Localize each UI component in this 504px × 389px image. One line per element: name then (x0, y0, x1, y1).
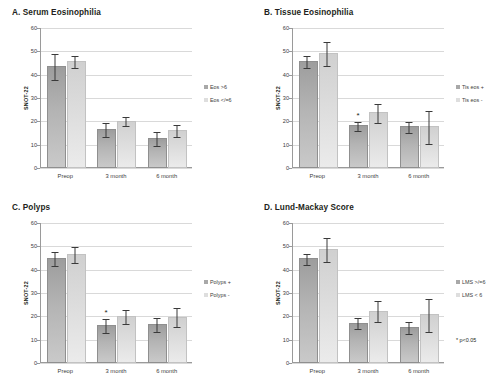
y-tick-label: 20 (31, 313, 37, 319)
error-bar-cap (304, 68, 311, 69)
error-bar-line (75, 248, 76, 264)
legend-swatch-icon (204, 85, 208, 89)
error-bar-cap (304, 265, 311, 266)
x-tick-label: Preop (310, 368, 325, 374)
plot-area: 0102030405060SNOT-22Preop*3 month6 month (40, 223, 192, 363)
error-bar-cap (324, 262, 331, 263)
y-tick-label: 30 (31, 95, 37, 101)
legend-label: Polyps - (210, 292, 229, 298)
panel-title: C. Polyps (12, 203, 50, 212)
y-tick-label: 0 (34, 165, 37, 171)
y-tick-label: 10 (31, 142, 37, 148)
y-tick-label: 10 (283, 142, 289, 148)
y-tick-label: 50 (31, 243, 37, 249)
error-bar (47, 223, 64, 363)
y-tick-label: 30 (31, 290, 37, 296)
x-tick-label: 6 month (408, 368, 429, 374)
bar-group: Preop (40, 223, 91, 363)
error-bar-cap (52, 54, 59, 55)
panel-b: B. Tissue Eosinophilia0102030405060SNOT-… (252, 0, 504, 194)
error-bar-cap (324, 238, 331, 239)
error-bar-cap (173, 137, 180, 138)
bar-group: 6 month (141, 28, 192, 168)
error-bar-line (327, 43, 328, 66)
bar-group: 6 month (141, 223, 192, 363)
x-tick-label: 3 month (358, 368, 379, 374)
error-bar-line (377, 105, 378, 124)
bar-group: 3 month (91, 28, 142, 168)
error-bar-line (55, 253, 56, 267)
y-tick-mark (289, 363, 292, 364)
y-tick-label: 40 (283, 72, 289, 78)
error-bar-cap (52, 266, 59, 267)
error-bar-line (105, 320, 106, 334)
error-bar-line (55, 55, 56, 81)
legend: Polyps +Polyps - (204, 279, 231, 305)
gridline (40, 363, 192, 364)
error-bar-line (105, 124, 106, 138)
error-bar-cap (102, 333, 109, 334)
error-bar-cap (324, 42, 331, 43)
error-bar-cap (173, 327, 180, 328)
error-bar (117, 223, 134, 363)
y-tick-label: 60 (31, 25, 37, 31)
error-bar-line (176, 309, 177, 328)
y-tick-label: 60 (31, 220, 37, 226)
error-bar (369, 223, 386, 363)
error-bar-cap (354, 318, 361, 319)
x-tick-label: Preop (310, 173, 325, 179)
bar-group: 6 month (393, 28, 444, 168)
y-tick-label: 50 (31, 48, 37, 54)
error-bar (97, 28, 114, 168)
error-bar-cap (122, 126, 129, 127)
y-tick-label: 0 (286, 165, 289, 171)
figure-canvas: A. Serum Eosinophilia0102030405060SNOT-2… (0, 0, 504, 389)
legend-label: Eos </=6 (210, 97, 232, 103)
y-tick-label: 0 (286, 360, 289, 366)
error-bar (67, 28, 84, 168)
error-bar-cap (72, 56, 79, 57)
significance-marker: * (356, 113, 359, 119)
plot-area: 0102030405060SNOT-22Preop3 month6 month (40, 28, 192, 168)
error-bar-cap (102, 123, 109, 124)
x-tick-label: 6 month (408, 173, 429, 179)
legend-label: LMS >/=6 (462, 279, 485, 285)
error-bar-cap (102, 319, 109, 320)
error-bar (168, 223, 185, 363)
error-bar (299, 223, 316, 363)
significance-marker: * (104, 310, 107, 316)
legend-item: LMS >/=6 (456, 279, 485, 285)
error-bar-cap (304, 56, 311, 57)
y-tick-label: 60 (283, 220, 289, 226)
panel-title: D. Lund-Mackay Score (264, 203, 354, 212)
error-bar-cap (102, 137, 109, 138)
error-bar-line (377, 302, 378, 323)
legend-label: Polyps + (210, 279, 231, 285)
y-tick-label: 20 (283, 313, 289, 319)
panel-d: D. Lund-Mackay Score0102030405060SNOT-22… (252, 195, 504, 389)
y-tick-label: 10 (31, 337, 37, 343)
legend-swatch-icon (204, 293, 208, 297)
legend-label: LMS < 6 (462, 292, 482, 298)
error-bar (319, 223, 336, 363)
panel-title: A. Serum Eosinophilia (12, 8, 101, 17)
error-bar (67, 223, 84, 363)
error-bar-cap (153, 132, 160, 133)
error-bar-cap (374, 104, 381, 105)
error-bar-cap (153, 146, 160, 147)
error-bar (319, 28, 336, 168)
y-axis-label: SNOT-22 (275, 86, 281, 110)
legend-swatch-icon (456, 98, 460, 102)
bar-group: Preop (292, 223, 343, 363)
legend-item: Tis eos - (456, 97, 484, 103)
panel-a: A. Serum Eosinophilia0102030405060SNOT-2… (0, 0, 252, 194)
legend: Tis eos +Tis eos - (456, 84, 484, 110)
error-bar (97, 223, 114, 363)
y-tick-label: 50 (283, 48, 289, 54)
y-tick-mark (289, 168, 292, 169)
error-bar-cap (405, 133, 412, 134)
y-tick-label: 20 (31, 118, 37, 124)
error-bar-line (428, 112, 429, 145)
error-bar (420, 223, 437, 363)
x-tick-label: Preop (58, 173, 73, 179)
